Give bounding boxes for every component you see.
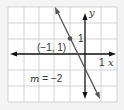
slope-variable: m [30, 73, 39, 84]
y-tick-label: 1 [78, 33, 84, 44]
x-tick-label: 1 [99, 57, 105, 68]
x-axis-label: x [108, 57, 114, 68]
point-label: (−1, 1) [37, 42, 66, 53]
slope-value: = −2 [39, 73, 62, 84]
point-marker [68, 36, 73, 41]
slope-label: m = −2 [30, 73, 63, 84]
coordinate-graph: (−1, 1) 1 1 x y m = −2 [0, 0, 124, 110]
y-axis-label: y [88, 7, 95, 18]
